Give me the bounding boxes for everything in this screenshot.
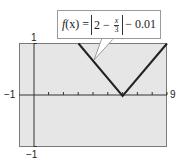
x-max-label: 9 [170,90,176,100]
callout-two-minus: 2 − [94,18,110,32]
callout-pointer [94,38,114,60]
fraction-denominator: 3 [115,26,119,34]
callout-x-eq: (x) = [65,17,89,32]
fraction: x 3 [114,17,120,34]
callout-tail: − 0.01 [125,17,156,32]
function-line [79,44,168,97]
function-callout: f(x) = 2 − x 3 − 0.01 [57,10,161,39]
y-max-label: 1 [31,33,37,43]
x-min-label: −1 [4,90,15,100]
absolute-value: 2 − x 3 [91,15,123,35]
y-min-label: −1 [26,150,37,160]
